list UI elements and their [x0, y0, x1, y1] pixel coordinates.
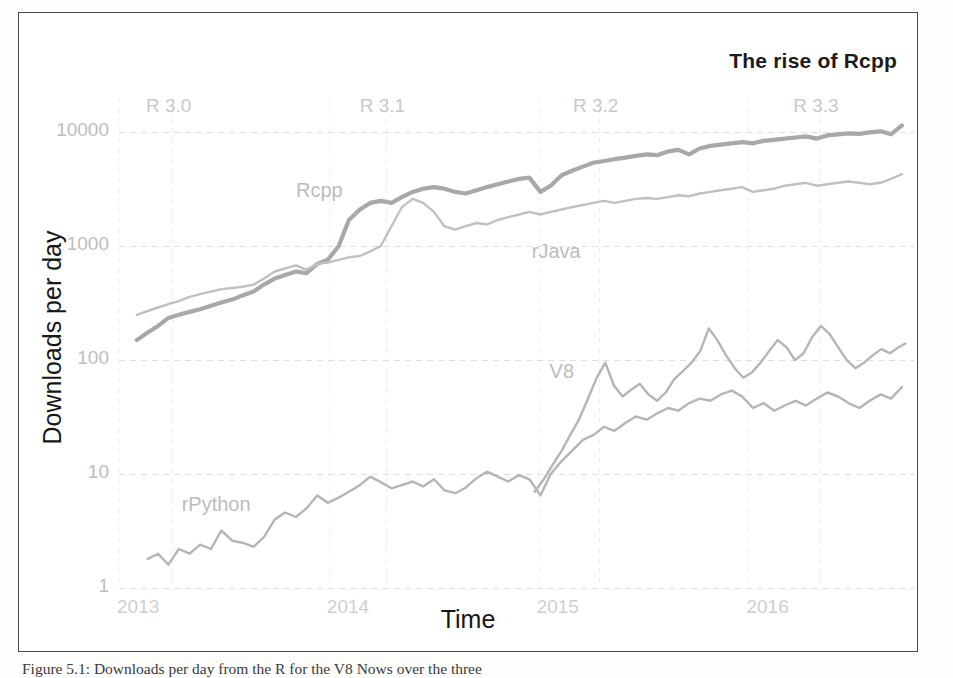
y-tick-label: 1 — [41, 575, 109, 597]
chart-title: The rise of Rcpp — [729, 49, 897, 73]
series-label-rpython: rPython — [182, 493, 251, 516]
r-version-label: R 3.2 — [573, 95, 618, 117]
r-version-label: R 3.0 — [146, 95, 191, 117]
x-tick-label: 2014 — [327, 596, 369, 618]
y-tick-label: 10000 — [41, 119, 109, 141]
series-label-rcpp: Rcpp — [296, 179, 343, 202]
y-tick-label: 10 — [41, 461, 109, 483]
x-tick-label: 2015 — [537, 596, 579, 618]
r-version-label: R 3.3 — [793, 95, 838, 117]
series-line-rcpp — [137, 125, 902, 340]
x-tick-label: 2013 — [117, 596, 159, 618]
gridline-y — [119, 588, 914, 589]
figure-frame: The rise of Rcpp Downloads per day Time … — [18, 12, 918, 652]
plot-area: 100001000100101 2013201420152016 R 3.0R … — [119, 98, 914, 588]
x-tick-label: 2016 — [746, 596, 788, 618]
y-tick-label: 1000 — [41, 233, 109, 255]
series-label-v8: V8 — [550, 360, 574, 383]
y-axis-title: Downloads per day — [38, 173, 67, 503]
series-line-rpython — [148, 387, 902, 565]
r-version-label: R 3.1 — [360, 95, 405, 117]
series-line-v8 — [535, 326, 906, 492]
series-label-rjava: rJava — [532, 240, 581, 263]
y-tick-label: 100 — [41, 347, 109, 369]
figure-caption: Figure 5.1: Downloads per day from the R… — [22, 660, 922, 678]
